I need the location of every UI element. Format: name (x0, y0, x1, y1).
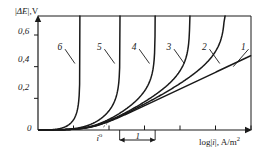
curve-3 (39, 16, 190, 130)
curve-label-5: 5 (97, 43, 102, 53)
chart-figure: |ΔE|,V 0,6 0,4 0,2 0 1 2 3 4 5 6 io 1 lo… (0, 0, 271, 155)
curve-label-6: 6 (58, 43, 63, 53)
y-tick-label-0.6: 0,6 (18, 27, 29, 36)
y-axis-title: |ΔE|,V (15, 7, 38, 16)
y-tick-label-0.4: 0,4 (18, 55, 29, 64)
curve-label-4: 4 (132, 43, 137, 53)
curve-2 (39, 16, 225, 130)
decade-span-label: 1 (135, 132, 140, 141)
curve-label-leader-6 (65, 49, 75, 63)
plot-geometry (34, 15, 252, 143)
decade-span-arrow-left (120, 137, 125, 142)
curve-1 (39, 56, 251, 130)
curve-label-2: 2 (202, 43, 207, 53)
y-tick-label-0: 0 (27, 124, 32, 133)
curve-label-leader-4 (139, 49, 149, 63)
exchange-current-annotation: io (96, 132, 102, 143)
curve-label-1: 1 (241, 43, 246, 53)
curve-label-leader-2 (210, 49, 220, 63)
x-axis-title: log|i|, A/m2 (199, 136, 240, 147)
y-tick-label-0.2: 0,2 (18, 83, 29, 92)
curve-4 (39, 16, 155, 130)
decade-span-arrow-right (150, 137, 155, 142)
curve-label-3: 3 (167, 43, 172, 53)
curve-6 (39, 16, 80, 130)
curve-label-leader-5 (104, 49, 114, 63)
curve-label-leader-3 (174, 49, 184, 63)
